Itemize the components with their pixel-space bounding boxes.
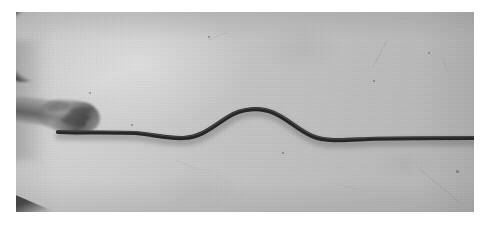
figure-root <box>0 0 491 229</box>
rope-overlay <box>16 12 474 212</box>
page-margin-top <box>0 0 491 12</box>
page-margin-bottom <box>0 212 491 229</box>
page-margin-left <box>0 0 16 229</box>
photograph-plate <box>16 12 474 212</box>
page-margin-right <box>474 0 491 229</box>
